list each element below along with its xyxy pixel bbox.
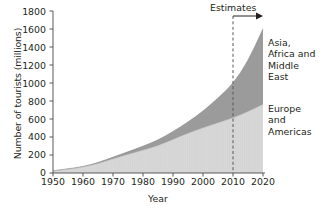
series-label-line: Americas xyxy=(268,126,312,137)
y-tick-label: 400 xyxy=(28,132,46,141)
series-label-line: Europe xyxy=(268,103,301,114)
y-tick-label: 600 xyxy=(28,115,46,124)
x-axis-title: Year xyxy=(53,193,263,204)
y-tick-label: 1800 xyxy=(22,7,46,16)
series-label-line: Middle xyxy=(268,60,299,71)
y-tick-label: 1600 xyxy=(22,25,46,34)
y-tick-label: 1200 xyxy=(22,61,46,70)
estimates-label: Estimates xyxy=(210,2,256,13)
y-tick-label: 200 xyxy=(28,150,46,159)
y-tick-label: 1000 xyxy=(22,79,46,88)
series-label-line: East xyxy=(268,71,288,82)
series-label-line: Asia, xyxy=(268,37,291,48)
estimates-arrow-head xyxy=(256,13,263,20)
y-axis-title: Number of tourists (millions) xyxy=(12,14,23,174)
series-label-europe-americas: Europe and Americas xyxy=(268,103,312,137)
series-label-line: Africa and xyxy=(268,48,315,59)
y-tick-label: 800 xyxy=(28,97,46,106)
y-axis-ticks xyxy=(50,11,54,173)
y-tick-label: 1400 xyxy=(22,43,46,52)
tourism-area-chart: 1800 1600 1400 1200 1000 800 600 400 200… xyxy=(0,0,336,209)
series-label-asia-africa-middle-east: Asia, Africa and Middle East xyxy=(268,37,315,83)
series-label-line: and xyxy=(268,114,286,125)
x-tick-label: 2020 xyxy=(243,176,283,187)
